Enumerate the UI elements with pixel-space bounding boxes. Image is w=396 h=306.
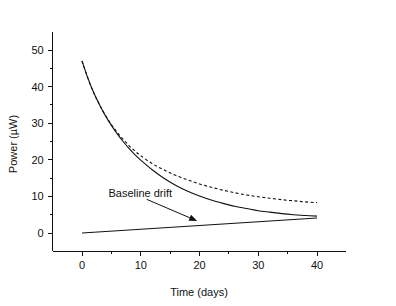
x-axis-title: Time (days) xyxy=(170,286,228,298)
y-tick-label: 50 xyxy=(31,44,43,56)
x-tick-label: 10 xyxy=(135,259,147,271)
data-series xyxy=(82,61,317,233)
chart-figure: 010203040 01020304050 Baseline drift Tim… xyxy=(0,0,396,306)
x-tick-label: 30 xyxy=(252,259,264,271)
y-tick-label: 40 xyxy=(31,81,43,93)
axes xyxy=(53,32,347,252)
y-tick-label: 0 xyxy=(38,227,44,239)
y-tick-label: 20 xyxy=(31,154,43,166)
baseline-drift-arrow-shaft xyxy=(147,199,190,217)
x-tick-label: 0 xyxy=(79,259,85,271)
baseline-drift-line xyxy=(82,218,317,233)
x-tick-labels: 010203040 xyxy=(79,259,323,271)
tick-marks xyxy=(48,50,317,256)
chart-annotations: Baseline drift xyxy=(108,187,197,221)
power-decay-line-chart: 010203040 01020304050 Baseline drift Tim… xyxy=(0,0,396,306)
fitted-decay-curve xyxy=(82,61,317,203)
y-tick-label: 30 xyxy=(31,117,43,129)
y-tick-labels: 01020304050 xyxy=(31,44,43,239)
baseline-drift-label: Baseline drift xyxy=(108,187,172,199)
y-axis-title: Power (µW) xyxy=(7,115,19,173)
y-tick-label: 10 xyxy=(31,190,43,202)
baseline-drift-arrow-head xyxy=(189,215,198,221)
x-tick-label: 40 xyxy=(311,259,323,271)
x-tick-label: 20 xyxy=(193,259,205,271)
